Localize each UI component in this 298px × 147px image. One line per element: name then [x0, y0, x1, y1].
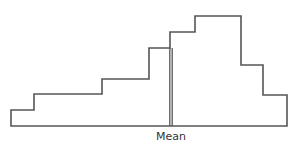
- mean-label: Mean: [156, 130, 186, 143]
- histogram-chart: Mean: [0, 0, 298, 147]
- histogram-outline: [11, 16, 287, 126]
- mean-line: [170, 48, 172, 126]
